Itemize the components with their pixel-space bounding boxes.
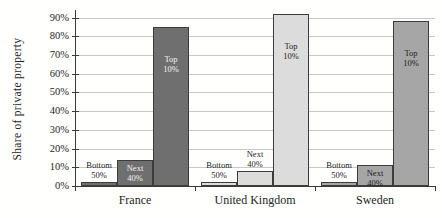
y-tick-70 <box>72 55 79 56</box>
gridline-50 <box>76 92 435 93</box>
bar-sweden-top-10% <box>393 21 429 186</box>
bar-label-sweden-1: Next40% <box>352 168 398 188</box>
y-tick-60 <box>72 74 79 75</box>
y-tick-label-50: 50% <box>29 86 69 98</box>
y-tick-20 <box>72 149 79 150</box>
gridline-40 <box>76 111 435 112</box>
bar-label-france-1: Next40% <box>112 163 158 183</box>
y-tick-30 <box>72 130 79 131</box>
bar-chart: Share of private property 0%10%20%30%40%… <box>0 0 442 218</box>
y-tick-50 <box>72 92 79 93</box>
gridline-80 <box>76 36 435 37</box>
y-tick-label-10: 10% <box>29 161 69 173</box>
y-tick-label-80: 80% <box>29 30 69 42</box>
x-tick-0 <box>75 187 76 191</box>
x-tick-2 <box>315 187 316 191</box>
bar-label-united-kingdom-2: Top10% <box>268 41 314 61</box>
y-tick-40 <box>72 111 79 112</box>
x-tick-1 <box>195 187 196 191</box>
x-tick-3 <box>435 187 436 191</box>
y-axis-title: Share of private property <box>11 38 23 161</box>
y-tick-label-0: 0% <box>29 180 69 192</box>
y-tick-80 <box>72 36 79 37</box>
bar-france-top-10% <box>153 27 189 186</box>
gridline-60 <box>76 74 435 75</box>
bar-label-united-kingdom-1: Next40% <box>232 149 278 169</box>
bar-united-kingdom-top-10% <box>273 14 309 186</box>
plot-area: 0%10%20%30%40%50%60%70%80%90%Bottom50%Ne… <box>75 10 435 187</box>
y-tick-label-20: 20% <box>29 143 69 155</box>
y-tick-label-90: 90% <box>29 12 69 24</box>
y-tick-label-70: 70% <box>29 49 69 61</box>
bar-label-france-2: Top10% <box>148 54 194 74</box>
y-tick-90 <box>72 18 79 19</box>
gridline-90 <box>76 18 435 19</box>
category-label-sweden: Sweden <box>295 193 442 208</box>
gridline-70 <box>76 55 435 56</box>
y-tick-label-60: 60% <box>29 68 69 80</box>
y-tick-label-30: 30% <box>29 124 69 136</box>
bar-label-sweden-2: Top10% <box>388 48 434 68</box>
y-tick-label-40: 40% <box>29 105 69 117</box>
gridline-30 <box>76 130 435 131</box>
bar-united-kingdom-next-40% <box>237 171 273 186</box>
